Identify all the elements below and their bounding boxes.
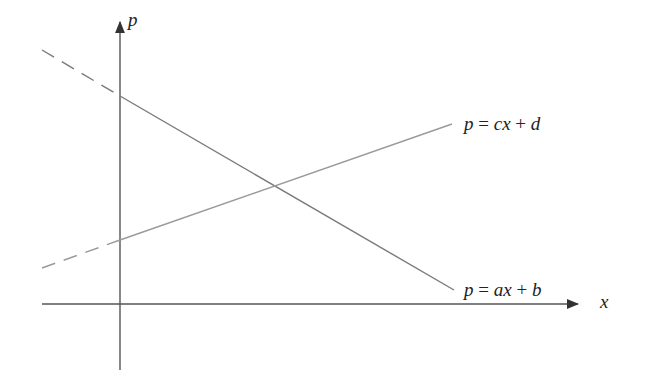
line-cx-d-label: p = cx + d (464, 114, 540, 133)
p-axis-label: p (128, 10, 138, 29)
line-ax-b (120, 96, 454, 290)
line-ax-b-dashed (42, 50, 120, 96)
line-ax-b-label: p = ax + b (464, 280, 541, 299)
x-axis-label: x (600, 292, 608, 311)
linear-equations-diagram (0, 0, 648, 388)
line-cx-d-dashed (42, 240, 120, 268)
line-cx-d (120, 124, 452, 240)
